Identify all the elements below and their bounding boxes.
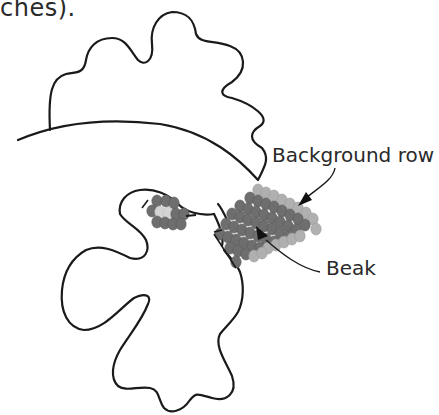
background-row-arrow: [298, 168, 335, 206]
eye-beads: [142, 195, 196, 230]
beak-label: Beak: [326, 256, 376, 280]
background-row-label: Background row: [272, 143, 434, 167]
bird-head-diagram: [0, 0, 439, 415]
crest-outline: [18, 12, 266, 180]
